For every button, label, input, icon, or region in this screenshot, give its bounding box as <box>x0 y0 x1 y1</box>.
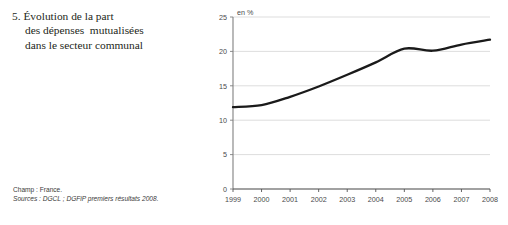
data-series-line <box>233 40 490 107</box>
x-tick-label: 2001 <box>282 195 298 204</box>
footnote-sources: Sources : DGCL ; DGFiP premiers résultat… <box>13 195 203 204</box>
y-tick-label: 25 <box>219 13 227 22</box>
figure-root: 5. Évolution de la part des dépenses mut… <box>0 0 508 225</box>
figure-title: 5. Évolution de la part des dépenses mut… <box>12 9 198 52</box>
footnote-champ: Champ : France. <box>13 186 203 195</box>
x-tick-label: 2002 <box>311 195 327 204</box>
line-chart: 0510152025 19992000200120022003200420052… <box>205 6 503 212</box>
x-tick-label: 2004 <box>368 195 384 204</box>
x-tick-label: 2000 <box>254 195 270 204</box>
x-tick-label: 2007 <box>453 195 469 204</box>
x-tick-label: 2006 <box>425 195 441 204</box>
chart-y-axis: 0510152025 <box>219 13 233 194</box>
x-tick-label: 2003 <box>339 195 355 204</box>
y-tick-label: 10 <box>219 116 227 125</box>
figure-title-line-3: dans le secteur communal <box>12 38 198 52</box>
x-tick-label: 2008 <box>482 195 498 204</box>
y-tick-label: 0 <box>223 185 227 194</box>
y-tick-label: 5 <box>223 150 227 159</box>
y-axis-unit-label: en % <box>237 8 254 17</box>
x-tick-label: 2005 <box>396 195 412 204</box>
figure-footnotes: Champ : France. Sources : DGCL ; DGFiP p… <box>13 186 203 203</box>
chart-canvas: 0510152025 19992000200120022003200420052… <box>205 6 503 212</box>
x-tick-label: 1999 <box>225 195 241 204</box>
chart-x-axis: 1999200020012002200320042005200620072008 <box>225 189 498 204</box>
figure-title-line-2: des dépenses mutualisées <box>12 23 198 37</box>
y-tick-label: 20 <box>219 47 227 56</box>
figure-title-line-1: 5. Évolution de la part <box>12 9 198 23</box>
y-tick-label: 15 <box>219 82 227 91</box>
